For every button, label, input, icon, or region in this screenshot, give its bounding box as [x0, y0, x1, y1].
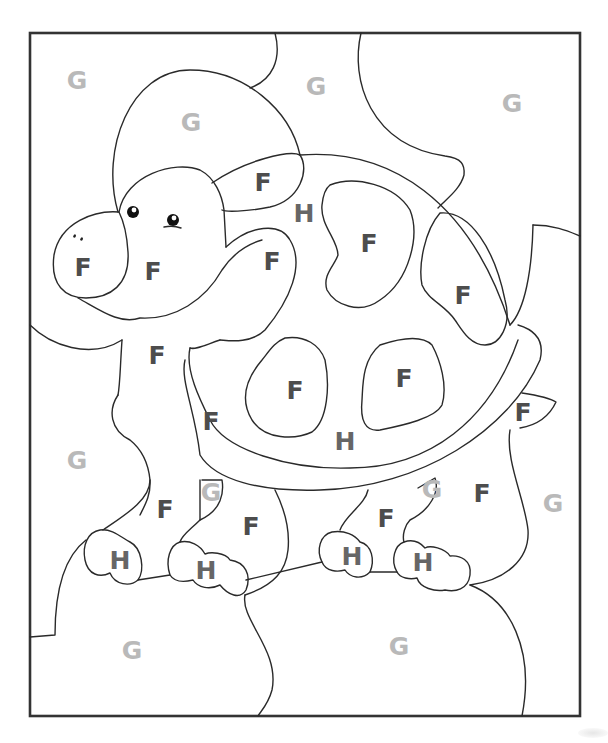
neck-shell-join: [190, 340, 220, 348]
bg-curve-bottom-mid: [245, 595, 273, 716]
region-label-f-front-leg-right: F: [242, 514, 259, 539]
region-label-f-neck: F: [148, 343, 165, 368]
bg-curve-bottom-left: [30, 540, 86, 637]
back-leg-right: [470, 430, 528, 585]
bg-curve-right: [533, 225, 580, 236]
bg-curve-top-left: [250, 33, 277, 88]
region-label-g-top-left: G: [67, 68, 88, 93]
region-label-f-face: F: [144, 259, 161, 284]
region-label-h-shell-top: H: [294, 201, 315, 226]
region-label-f-neck-spot: F: [263, 249, 280, 274]
neck-left: [118, 340, 122, 395]
region-label-f-body-left: F: [202, 409, 219, 434]
region-label-h-foot-3: H: [342, 544, 363, 569]
region-label-g-right: G: [543, 491, 564, 516]
region-label-h-foot-2: H: [196, 558, 217, 583]
region-label-f-nose: F: [74, 255, 91, 280]
region-label-f-shell-spot-left: F: [286, 378, 303, 403]
eye-lid: [164, 226, 181, 228]
neck-spot: [220, 228, 296, 341]
region-label-f-tail: F: [514, 400, 531, 425]
region-label-h-shell-bottom: H: [335, 429, 356, 454]
region-label-g-between-back-legs: G: [422, 477, 443, 502]
head-back-bubble: [113, 70, 300, 212]
bg-curve-bottom-right: [470, 585, 525, 716]
region-label-f-back-leg-right: F: [473, 481, 490, 506]
corner-smudge: [578, 728, 608, 738]
bg-curve-left: [30, 325, 122, 349]
shell-right-edge: [510, 225, 533, 325]
region-label-f-cheek-shell: F: [254, 170, 271, 195]
region-label-g-between-front-legs: G: [201, 480, 222, 505]
region-label-g-top-right: G: [502, 91, 523, 116]
front-leg-mid: [180, 480, 200, 542]
region-label-f-back-leg-left: F: [377, 506, 394, 531]
region-label-h-foot-1: H: [110, 548, 131, 573]
region-label-g-top-mid: G: [306, 74, 327, 99]
region-label-g-hat: G: [181, 110, 202, 135]
nostrils: [73, 234, 83, 240]
region-label-f-front-leg-left: F: [156, 497, 173, 522]
region-label-g-bottom-right: G: [389, 634, 410, 659]
face-lower: [78, 240, 262, 320]
front-leg-left: [103, 480, 150, 530]
page-frame: [30, 33, 580, 716]
shell-rim-outer: [184, 325, 541, 490]
shell-top-arc: [300, 154, 510, 325]
region-label-f-shell-right: F: [454, 283, 471, 308]
back-leg-left: [340, 490, 368, 530]
region-label-f-shell-spot-top: F: [360, 231, 377, 256]
region-label-g-bottom-left: G: [122, 638, 143, 663]
region-label-f-shell-spot-right: F: [395, 366, 412, 391]
region-label-h-foot-4: H: [413, 550, 434, 575]
region-label-g-left: G: [67, 448, 88, 473]
